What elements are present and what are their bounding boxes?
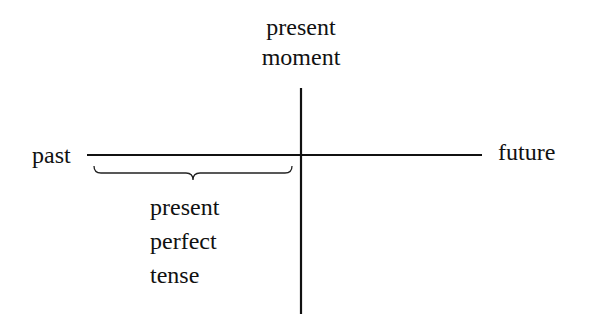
past-label: past — [32, 141, 71, 169]
curly-brace — [94, 166, 292, 180]
present-moment-label: present moment — [253, 12, 349, 72]
present-moment-line-1: present — [253, 12, 349, 42]
ppt-line-1: present — [150, 190, 219, 224]
future-label: future — [498, 138, 555, 166]
present-perfect-tense-label: present perfect tense — [150, 190, 219, 292]
ppt-line-2: perfect — [150, 224, 219, 258]
present-moment-line-2: moment — [253, 42, 349, 72]
ppt-line-3: tense — [150, 258, 219, 292]
